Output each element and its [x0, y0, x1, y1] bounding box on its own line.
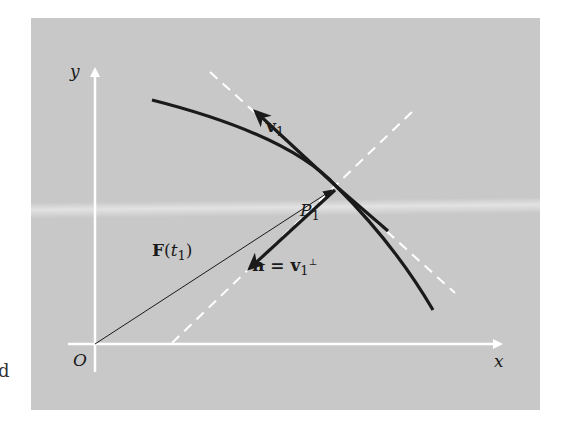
position-vector-label: F(t1): [152, 240, 192, 263]
x-axis-label: x: [494, 351, 504, 371]
normal-vector-label: n = v1⊥: [252, 255, 317, 278]
tangent-vector-label: v1: [265, 116, 284, 139]
curve: [152, 100, 433, 310]
point-label: P1: [299, 200, 320, 223]
origin-label: O: [73, 350, 87, 370]
diagram-svg: y x O v1 P1 F(t1) n = v1⊥: [0, 0, 569, 429]
tangent-segment: [337, 187, 388, 231]
y-axis-label: y: [69, 61, 80, 81]
diagram-stage: d: [0, 0, 569, 429]
